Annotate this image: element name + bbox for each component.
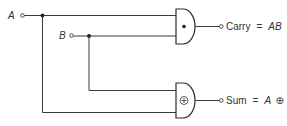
carry-equals: = bbox=[256, 21, 262, 32]
input-b-label: B bbox=[59, 30, 66, 41]
sum-output-terminal[interactable] bbox=[220, 99, 224, 103]
input-a-terminal[interactable] bbox=[21, 14, 25, 18]
sum-term-a: A bbox=[263, 95, 271, 106]
input-b-terminal[interactable] bbox=[70, 34, 74, 38]
carry-expression: AB bbox=[267, 21, 282, 32]
half-adder-circuit: A B Carry = AB Sum = A ⊕ B bbox=[0, 0, 287, 126]
carry-output-label: Carry = AB bbox=[226, 16, 282, 33]
input-a-label: A bbox=[7, 10, 15, 21]
and-gate-dot-icon bbox=[182, 25, 186, 29]
and-gate bbox=[176, 9, 195, 44]
sum-xor-operator-icon: ⊕ bbox=[276, 95, 284, 106]
xor-gate bbox=[176, 83, 195, 118]
sum-word: Sum bbox=[226, 95, 247, 106]
sum-equals: = bbox=[253, 95, 259, 106]
carry-word: Carry bbox=[226, 21, 250, 32]
sum-output-label: Sum = A ⊕ B bbox=[226, 90, 287, 107]
carry-output-terminal[interactable] bbox=[220, 25, 224, 29]
